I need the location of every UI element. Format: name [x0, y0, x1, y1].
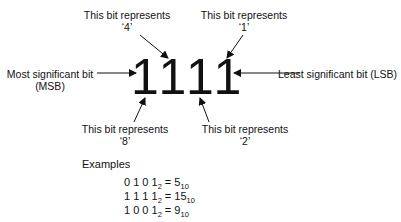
label-bit-4-line1: This bit represents [82, 9, 172, 21]
label-lsb-line1: Least significant bit (LSB) [278, 68, 397, 80]
example-base-out: 10 [180, 210, 188, 219]
examples-title: Examples [82, 158, 130, 170]
label-bit-8-line1: This bit represents [80, 123, 170, 135]
example-equals: = [162, 190, 175, 202]
example-equals: = [162, 176, 175, 188]
bit-8: 1 [131, 52, 159, 102]
label-bit-4-line2: ‘4’ [82, 21, 172, 33]
label-bit-2: This bit represents ‘2’ [200, 123, 290, 147]
label-bit-4: This bit represents ‘4’ [82, 9, 172, 33]
example-row: 0 1 0 12 = 510 [124, 176, 189, 189]
example-binary: 1 1 1 1 [124, 190, 158, 202]
label-bit-2-line1: This bit represents [200, 123, 290, 135]
label-bit-1: This bit represents ‘1’ [199, 9, 289, 33]
example-decimal: 15 [174, 190, 186, 202]
label-bit-1-line2: ‘1’ [199, 21, 289, 33]
example-binary: 0 1 0 1 [124, 176, 158, 188]
label-msb-line2: (MSB) [4, 80, 96, 92]
label-bit-2-line2: ‘2’ [200, 135, 290, 147]
label-bit-1-line1: This bit represents [199, 9, 289, 21]
label-bit-8: This bit represents ‘8’ [80, 123, 170, 147]
bit-2: 1 [186, 52, 214, 102]
label-lsb: Least significant bit (LSB) [278, 68, 397, 80]
bit-1: 1 [214, 52, 242, 102]
label-bit-8-line2: ‘8’ [80, 135, 170, 147]
example-binary: 1 0 0 1 [124, 204, 158, 216]
label-msb-line1: Most significant bit [4, 68, 96, 80]
label-msb: Most significant bit (MSB) [4, 68, 96, 92]
example-row: 1 0 0 12 = 910 [124, 204, 189, 217]
bit-4: 1 [159, 52, 187, 102]
binary-number: 1111 [131, 52, 241, 102]
example-equals: = [162, 204, 175, 216]
arrows-layer [0, 0, 401, 222]
example-row: 1 1 1 12 = 1510 [124, 190, 195, 203]
